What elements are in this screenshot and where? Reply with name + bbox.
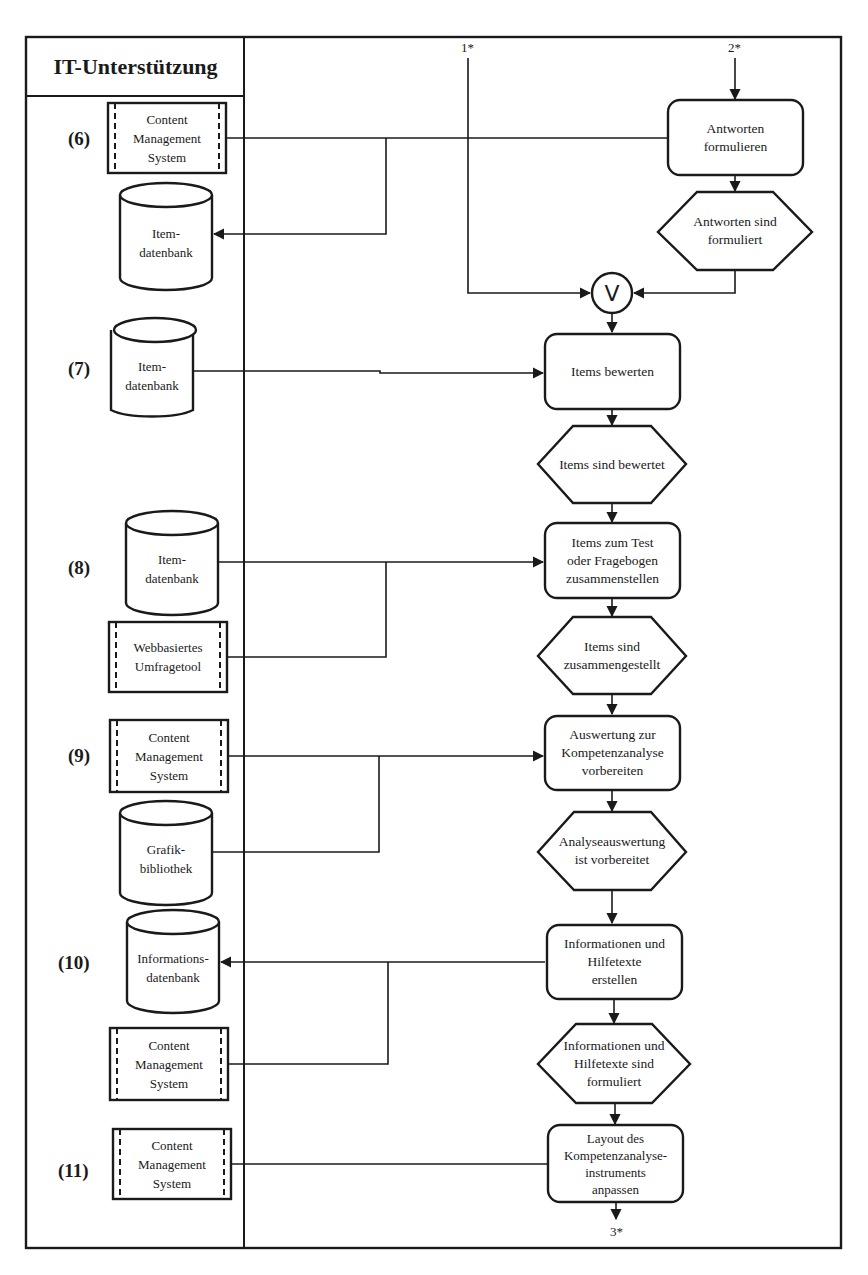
it-database-graphics-9: Grafik- bibliothek (120, 825, 212, 893)
section-number-9: (9) (68, 745, 90, 767)
process-9-label: Auswertung zur Kompetenzanalyse vorberei… (545, 716, 680, 790)
process-7-label: Items bewerten (545, 334, 680, 409)
it-database-item-6: Item- datenbank (120, 208, 212, 278)
process-6-label: Antworten formulieren (668, 100, 803, 175)
section-number-7: (7) (68, 358, 90, 380)
connector-1-label: 1* (461, 40, 474, 56)
it-database-info-10: Informations- datenbank (124, 934, 222, 1002)
connector-3-label: 3* (610, 1224, 623, 1240)
process-11-label: Layout des Kompetenzanalyse- instruments… (548, 1125, 683, 1202)
it-system-cms-9: Content Management System (112, 720, 226, 792)
event-6-label: Antworten sind formuliert (668, 192, 802, 270)
event-7-label: Items sind bewertet (548, 426, 676, 503)
process-10-label: Informationen und Hilfetexte erstellen (547, 925, 682, 999)
xor-merge-symbol: V (592, 273, 632, 313)
it-system-survey-tool-8: Webbasiertes Umfragetool (111, 622, 225, 692)
event-10-label: Informationen und Hilfetexte sind formul… (544, 1024, 684, 1103)
it-system-cms-10: Content Management System (112, 1028, 226, 1100)
connector-1-line (468, 58, 590, 293)
lane-header-it-support: IT-Unterstützung (27, 38, 244, 96)
section-number-8: (8) (68, 557, 90, 579)
it-database-item-8: Item- datenbank (126, 535, 218, 603)
section-number-11: (11) (58, 1160, 89, 1182)
event-9-label: Analyseauswertung ist vorbereitet (542, 812, 682, 890)
it-system-cms-6: Content Management System (110, 103, 224, 173)
connector-2-label: 2* (728, 40, 741, 56)
it-database-item-7: Item- datenbank (111, 342, 193, 410)
event-8-label: Items sind zusammengestellt (548, 617, 676, 694)
section-number-6: (6) (68, 128, 90, 150)
process-8-label: Items zum Test oder Fragebogen zusammens… (545, 523, 680, 598)
section-6-links (214, 138, 668, 234)
section-number-10: (10) (58, 952, 90, 974)
it-system-cms-11: Content Management System (115, 1129, 229, 1199)
